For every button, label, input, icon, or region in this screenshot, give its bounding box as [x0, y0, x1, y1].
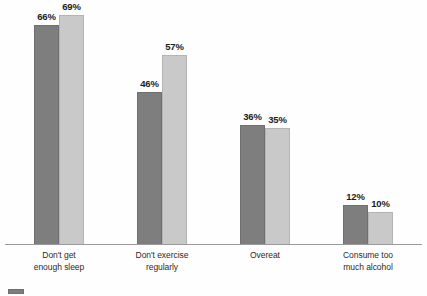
- category-label-3-line1: Consume too: [328, 250, 408, 262]
- bar-chart: 66% 69% 46% 57% 36% 35% 12% 10% Don't ge…: [0, 0, 427, 296]
- plot-area: 66% 69% 46% 57% 36% 35% 12% 10%: [0, 0, 427, 245]
- legend-swatch-series0: [8, 289, 24, 294]
- bar-series1-cat1: [162, 55, 187, 245]
- bar-value-series1-cat1: 57%: [157, 41, 192, 52]
- category-label-3: Consume too much alcohol: [328, 250, 408, 273]
- bar-series0-cat0: [34, 25, 59, 245]
- category-label-0-line1: Don't get: [19, 250, 99, 262]
- bar-value-series1-cat3: 10%: [363, 198, 398, 209]
- category-label-0: Don't get enough sleep: [19, 250, 99, 273]
- bar-value-series1-cat2: 35%: [260, 114, 295, 125]
- category-label-3-line2: much alcohol: [328, 262, 408, 274]
- category-label-1-line1: Don't exercise: [122, 250, 202, 262]
- chart-legend: [8, 289, 24, 296]
- category-label-1: Don't exercise regularly: [122, 250, 202, 273]
- bar-series0-cat1: [137, 92, 162, 245]
- bar-series1-cat2: [265, 128, 290, 245]
- bar-series1-cat0: [59, 15, 84, 245]
- category-label-2-line1: Overeat: [225, 250, 305, 262]
- bar-series0-cat3: [343, 205, 368, 245]
- category-label-2: Overeat: [225, 250, 305, 262]
- category-axis-labels: Don't get enough sleep Don't exercise re…: [0, 250, 427, 284]
- category-label-0-line2: enough sleep: [19, 262, 99, 274]
- category-label-1-line2: regularly: [122, 262, 202, 274]
- bar-value-series1-cat0: 69%: [54, 1, 89, 12]
- x-axis-baseline: [5, 244, 422, 245]
- bar-series0-cat2: [240, 125, 265, 245]
- bar-series1-cat3: [368, 212, 393, 245]
